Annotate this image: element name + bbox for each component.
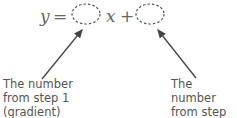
right-label-line2: from step 2	[171, 105, 237, 118]
right-arrow	[158, 30, 196, 78]
gradient-blank	[72, 4, 100, 24]
right-label-line1: The number	[171, 77, 237, 105]
intercept-blank	[136, 4, 164, 24]
equation-equals: =	[53, 6, 67, 26]
left-label: The number from step 1 (gradient)	[3, 77, 73, 118]
left-label-line3: (gradient)	[3, 105, 73, 118]
equation-x: x	[106, 6, 116, 26]
right-label: The number from step 2 (y-intercept)	[171, 77, 237, 118]
equation-plus: +	[120, 6, 134, 26]
left-label-line1: The number	[3, 77, 73, 91]
left-label-line2: from step 1	[3, 91, 73, 105]
left-arrow	[42, 30, 82, 79]
equation-y: y	[40, 6, 50, 26]
